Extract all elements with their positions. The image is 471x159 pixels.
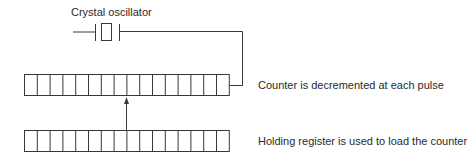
counter-label: Counter is decremented at each pulse xyxy=(258,79,444,91)
load-arrow-icon xyxy=(124,97,129,130)
holding-register xyxy=(25,131,230,152)
crystal-icon xyxy=(73,24,243,42)
counter-register xyxy=(25,75,230,96)
clock-wire xyxy=(229,32,243,86)
crystal-oscillator-label: Crystal oscillator xyxy=(71,6,152,18)
holding-register-label: Holding register is used to load the cou… xyxy=(258,135,467,147)
